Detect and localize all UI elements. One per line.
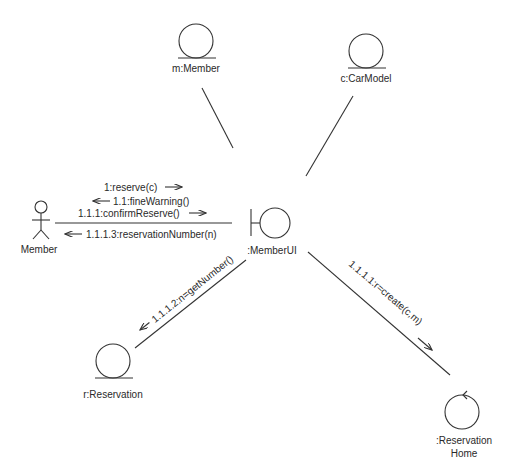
svg-text:1.1.1.1:r=create(c,m): 1.1.1.1:r=create(c,m) [347, 258, 425, 327]
message-reservationNumber: 1.1.1.3:reservationNumber(n) [65, 229, 217, 240]
control-label-line2: Home [451, 448, 478, 459]
link-ui-r [135, 260, 246, 348]
entity-label: m:Member [172, 63, 220, 74]
entity-icon [96, 344, 130, 378]
boundary-icon [260, 208, 290, 238]
link-ui-home [308, 252, 450, 375]
svg-text:1.1.1:confirmReserve(): 1.1.1:confirmReserve() [78, 208, 180, 219]
svg-text:1.1.1.2:n=getNumber(): 1.1.1.2:n=getNumber() [149, 253, 235, 324]
actor-member[interactable]: Member [21, 201, 58, 255]
entity-r-reservation[interactable]: r:Reservation [83, 344, 142, 400]
entity-m-member[interactable]: m:Member [172, 24, 220, 74]
message-create-arrow [418, 338, 432, 350]
link-m-ui [202, 88, 233, 148]
message-confirmReserve: 1.1.1:confirmReserve() [78, 208, 206, 219]
actor-icon [35, 201, 47, 213]
svg-text:1.1.1.3:reservationNumber(n): 1.1.1.3:reservationNumber(n) [86, 229, 217, 240]
message-fineWarning: 1.1:fineWarning() [93, 196, 189, 207]
message-getNumber: 1.1.1.2:n=getNumber() [137, 253, 235, 334]
entity-icon [349, 34, 383, 68]
link-c-ui [306, 96, 353, 176]
message-reserve: 1:reserve(c) [104, 182, 182, 193]
boundary-label: :MemberUI [247, 245, 296, 256]
actor-label: Member [21, 244, 58, 255]
svg-text:1.1:fineWarning(): 1.1:fineWarning() [113, 196, 189, 207]
control-label: :Reservation [436, 435, 492, 446]
svg-text:1:reserve(c): 1:reserve(c) [104, 182, 157, 193]
entity-label: r:Reservation [83, 389, 142, 400]
entity-label: c:CarModel [340, 73, 391, 84]
boundary-memberui[interactable]: :MemberUI [247, 208, 296, 256]
entity-c-carmodel[interactable]: c:CarModel [340, 34, 391, 84]
control-reservation-home[interactable]: :Reservation Home [436, 391, 492, 459]
entity-icon [179, 24, 213, 58]
control-icon [445, 395, 479, 429]
message-create: 1.1.1.1:r=create(c,m) [347, 258, 425, 327]
